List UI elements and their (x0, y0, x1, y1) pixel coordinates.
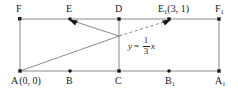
label-E: E (66, 4, 72, 14)
point-marker-B1 (167, 69, 171, 73)
label-C: C (115, 76, 122, 86)
equation-fraction: 1 3 (143, 36, 150, 56)
point-marker-D (117, 17, 120, 20)
label-F1: F1 (215, 4, 224, 14)
label-E1-coordinates: (3, 1) (167, 3, 189, 14)
segment-intersection-to-E1-dashed (119, 21, 167, 36)
segment-intersection-to-E (73, 21, 119, 36)
point-marker-F1 (217, 17, 220, 20)
label-B: B (66, 76, 73, 86)
label-A-base: A (11, 75, 18, 86)
label-F1-base: F (215, 3, 221, 14)
label-B1: B1 (165, 76, 175, 86)
equation-lhs: y (128, 42, 132, 51)
line-equation-label: y = 1 3 x (128, 36, 155, 56)
point-marker-E1 (167, 17, 170, 20)
label-A1: A1 (215, 76, 225, 86)
equation-denominator: 3 (143, 47, 150, 57)
label-E1-with-coords: E1(3, 1) (158, 4, 189, 14)
point-marker-C (117, 69, 120, 72)
geometry-figure: F E D E1(3, 1) F1 y = 1 3 x A(0, 0) B C … (0, 0, 238, 94)
label-D: D (115, 4, 122, 14)
equation-equals: = (134, 42, 139, 51)
label-B1-base: B (165, 75, 172, 86)
point-marker-B (68, 69, 72, 73)
label-A-coordinates: (0, 0) (19, 75, 41, 86)
point-marker-A (18, 69, 21, 72)
label-A-with-coords: A(0, 0) (11, 76, 41, 86)
point-marker-F (18, 17, 21, 20)
label-A1-subscript: 1 (222, 80, 225, 87)
equation-numerator: 1 (143, 36, 150, 46)
label-F1-subscript: 1 (221, 8, 224, 15)
label-E1-subscript: 1 (164, 8, 167, 15)
point-marker-E (68, 17, 72, 21)
label-F: F (16, 4, 22, 14)
segment-A-to-intersection (20, 35, 122, 71)
point-marker-F1-bottom (217, 69, 220, 72)
equation-variable: x (151, 42, 155, 51)
label-B1-subscript: 1 (172, 80, 175, 87)
